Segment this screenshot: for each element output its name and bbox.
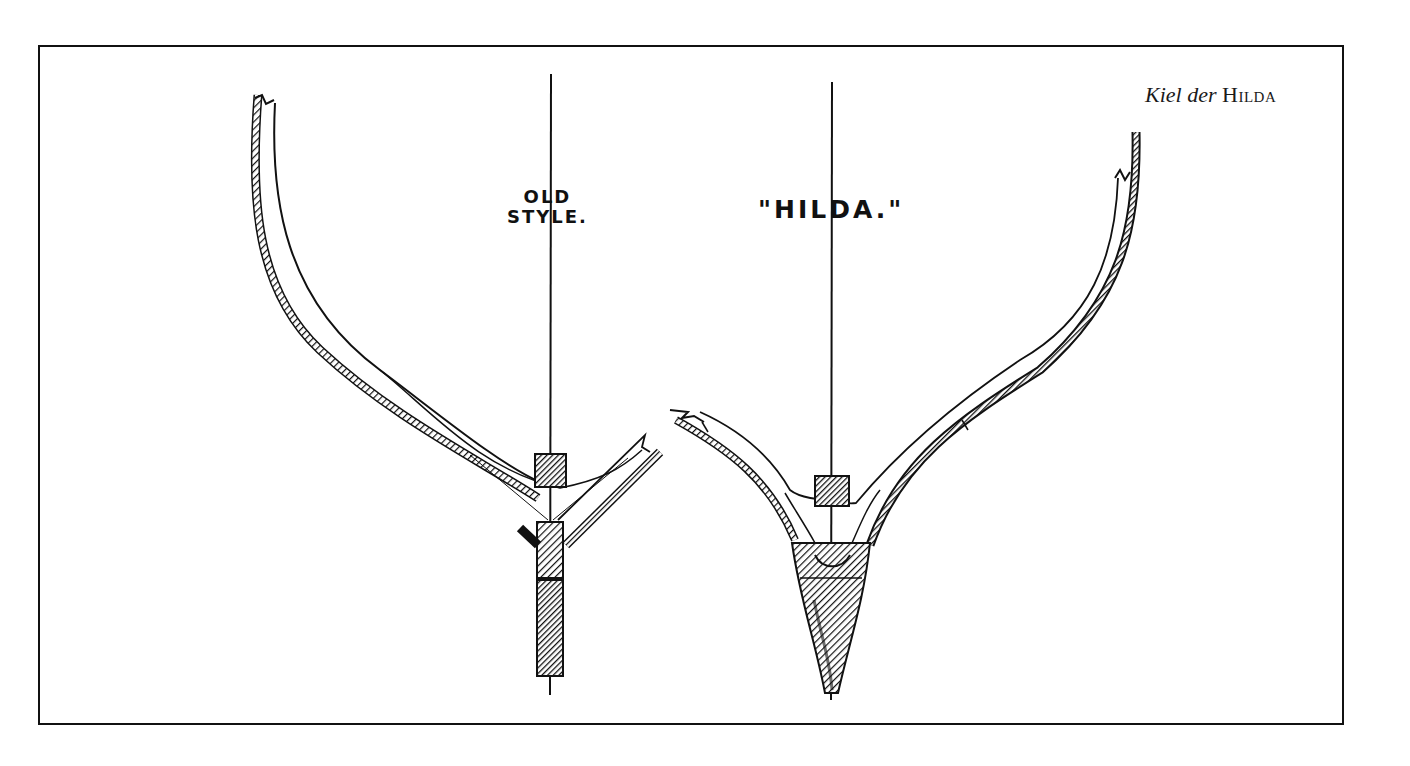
old-style-section [255,74,660,695]
hilda-hull-outer-right [870,132,1136,545]
old-style-keelson [535,454,566,487]
old-style-keel-upper [537,522,563,578]
hilda-keelson [815,476,849,506]
old-style-hull-outer-left [255,95,538,498]
old-style-keel-lower [537,580,563,676]
old-style-hull-inner-left [274,103,542,483]
hilda-hull-outer-left [676,420,795,540]
keel-cross-section-drawing [0,0,1410,766]
hilda-section [670,82,1136,700]
